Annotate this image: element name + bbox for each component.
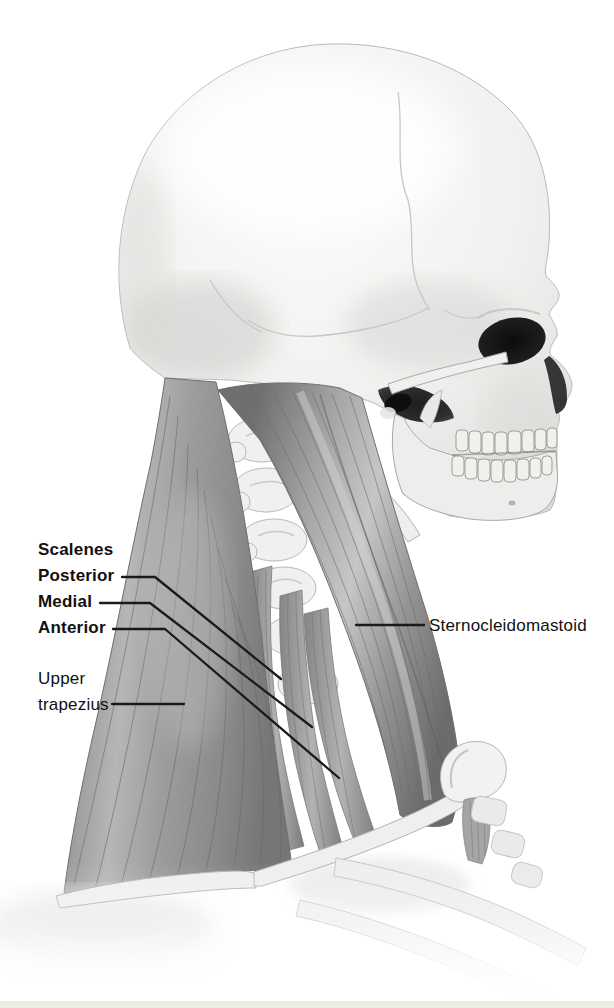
- anatomy-illustration: [0, 0, 614, 1008]
- label-scalene-anterior: Anterior: [38, 618, 106, 638]
- bottom-fade: [0, 860, 614, 1008]
- label-scalene-posterior: Posterior: [38, 566, 114, 586]
- label-upper-trapezius: Upper trapezius: [38, 666, 130, 718]
- label-scalene-medial: Medial: [38, 592, 92, 612]
- page-edge-strip: [0, 1001, 614, 1008]
- chin-dimple: [509, 501, 516, 506]
- label-scalenes-heading: Scalenes: [38, 540, 113, 560]
- tmj-condyle: [380, 407, 396, 419]
- label-sternocleidomastoid: Sternocleidomastoid: [429, 616, 587, 636]
- anatomy-figure: Scalenes Posterior Medial Anterior Upper…: [0, 0, 614, 1008]
